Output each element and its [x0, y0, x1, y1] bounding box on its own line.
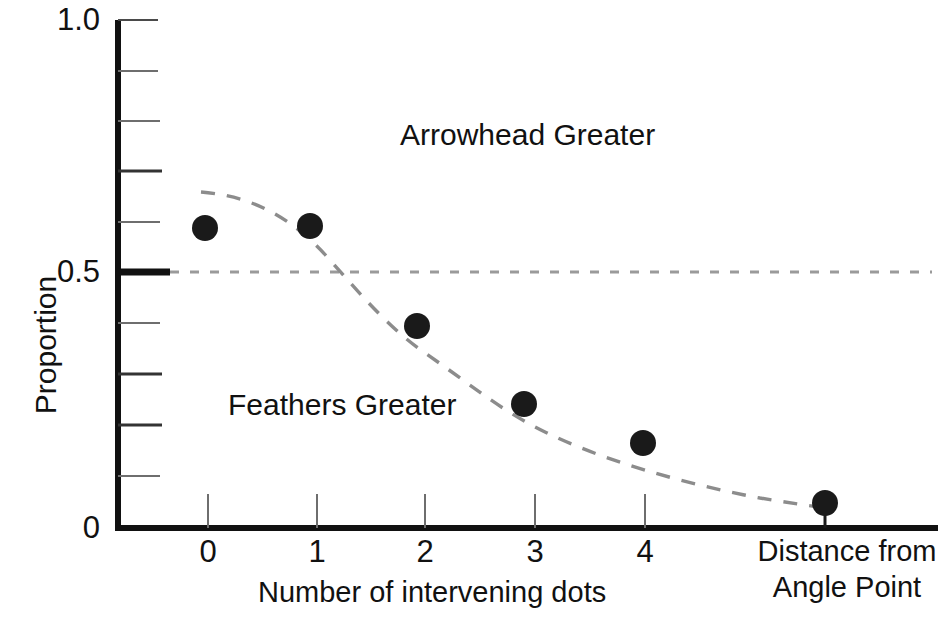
data-point-5 — [812, 490, 838, 516]
data-points — [192, 213, 838, 516]
chart-figure: 1.0 0.5 0 Proportion 0 1 2 3 4 Number of… — [0, 0, 938, 630]
trend-curve — [201, 192, 830, 508]
axis-lines — [115, 20, 938, 528]
x-tick-label-2: 2 — [395, 536, 455, 567]
annotation-feathers-greater: Feathers Greater — [228, 390, 456, 420]
data-point-0 — [192, 215, 218, 241]
x-tick-label-1: 1 — [287, 536, 347, 567]
x-tick-label-3: 3 — [505, 536, 565, 567]
y-tick-label-1_0: 1.0 — [28, 4, 100, 35]
annotation-arrowhead-greater: Arrowhead Greater — [400, 120, 655, 150]
x-ticks — [208, 494, 645, 528]
data-point-2 — [404, 313, 430, 339]
data-point-3 — [511, 391, 537, 417]
y-axis-title: Proportion — [31, 255, 61, 435]
x-category-label: Distance from Angle Point — [756, 534, 938, 606]
x-axis-title: Number of intervening dots — [258, 578, 606, 607]
y-major-ticks — [118, 20, 170, 272]
y-tick-label-0: 0 — [28, 512, 100, 543]
x-tick-label-0: 0 — [178, 536, 238, 567]
data-point-4 — [630, 430, 656, 456]
data-point-1 — [297, 213, 323, 239]
x-tick-label-4: 4 — [615, 536, 675, 567]
